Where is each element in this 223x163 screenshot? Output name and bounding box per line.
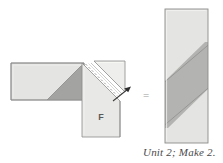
horizontal-strip-group (11, 63, 84, 100)
figure-caption: Unit 2; Make 2. (143, 146, 223, 158)
patch-label-F: F (98, 112, 104, 122)
quilt-diagram: F = (0, 0, 223, 163)
figure-canvas: F = (0, 0, 223, 163)
finished-unit-group (160, 9, 213, 143)
equals-sign: = (143, 89, 149, 101)
